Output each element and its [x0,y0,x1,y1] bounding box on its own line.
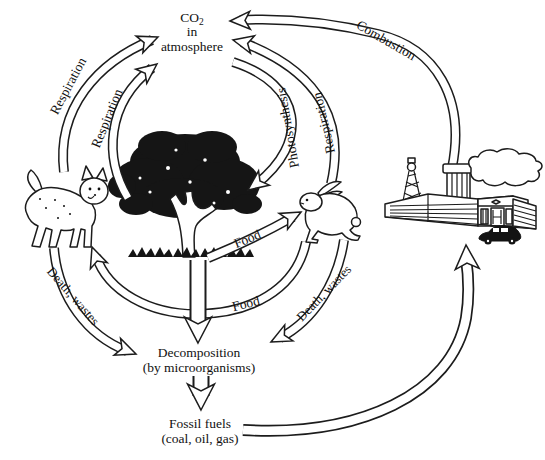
carbon-cycle-diagram: CO2 in atmosphere Respiration Respiratio… [0,0,545,460]
atmosphere-node: CO2 in atmosphere [161,10,223,54]
decomposition-node: Decomposition (by microorganisms) [143,345,256,375]
label-food-herbivore: Food [231,293,262,314]
bobcat-icon [25,166,108,247]
rabbit-icon [300,181,361,243]
rabbit-head [300,193,322,211]
decomposition-title: Decomposition [158,345,241,360]
bobcat-tail [28,170,42,192]
smokestack-icon [443,164,474,200]
bobcat-head [80,178,108,204]
atmosphere-line3: atmosphere [161,39,223,54]
fossil-fuels-node: Fossil fuels (coal, oil, gas) [161,416,238,446]
factory-icon [385,149,542,245]
atmosphere-line2: in [187,24,198,39]
label-food-plant: Food [232,227,264,251]
arrow-tree-to-decomposition [185,260,212,343]
car-icon [479,226,521,245]
decomposition-sub: (by microorganisms) [143,360,256,375]
label-death-wastes-left: Death, wastes [44,264,103,328]
rabbit-tail [352,218,361,227]
arrow-decomposition-to-fossil [188,376,215,410]
fossil-title: Fossil fuels [169,416,231,431]
factory-building [385,194,536,229]
diagram-canvas: CO2 in atmosphere Respiration Respiratio… [0,0,545,460]
smoke-icon [469,149,542,186]
fossil-sub: (coal, oil, gas) [161,431,238,446]
arrow-combustion [230,11,456,168]
label-death-wastes-right: Death, wastes [293,262,354,324]
label-combustion: Combustion [354,17,419,63]
